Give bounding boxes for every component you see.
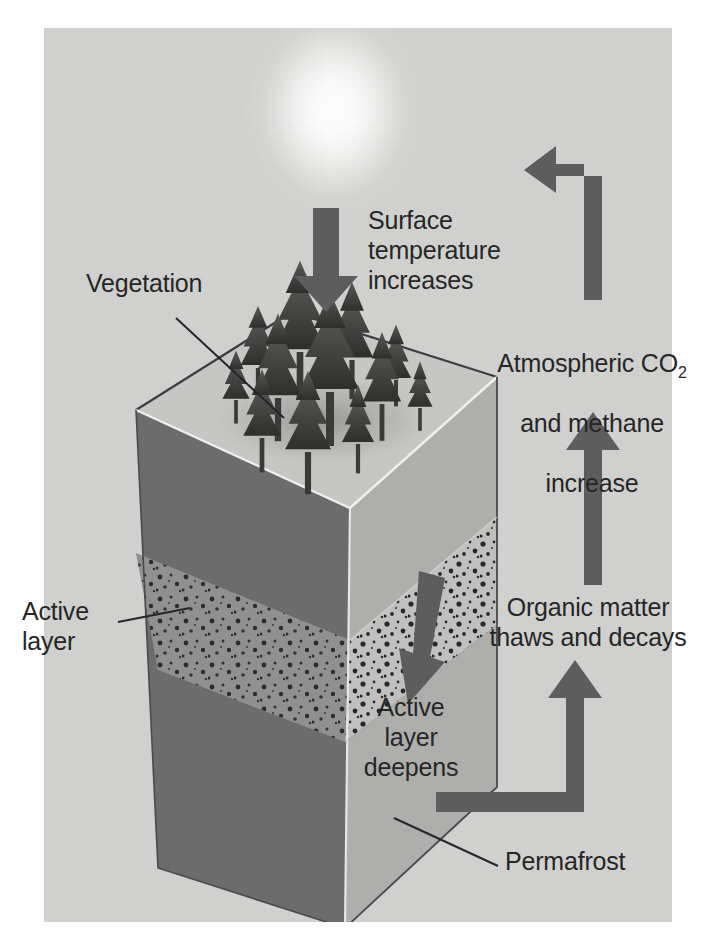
atmospheric-gases-line-2: and methane (520, 409, 664, 437)
organic-matter-label: Organic matter thaws and decays (466, 592, 710, 652)
atmospheric-gases-line-3: increase (546, 469, 639, 497)
atmospheric-gases-line-1: Atmospheric CO (497, 349, 678, 377)
elbow-arrow-up-left-icon (524, 146, 602, 300)
permafrost-label: Permafrost (505, 846, 625, 876)
permafrost-feedback-figure: Vegetation Surface temperature increases… (0, 0, 714, 950)
atmospheric-gases-label: Atmospheric CO2 and methane increase (478, 318, 706, 498)
surface-temperature-label: Surface temperature increases (368, 205, 501, 295)
active-layer-deepens-label: Active layer deepens (352, 692, 470, 782)
vegetation-label: Vegetation (86, 268, 202, 298)
co2-subscript: 2 (678, 364, 687, 381)
active-layer-label: Active layer (22, 596, 89, 656)
